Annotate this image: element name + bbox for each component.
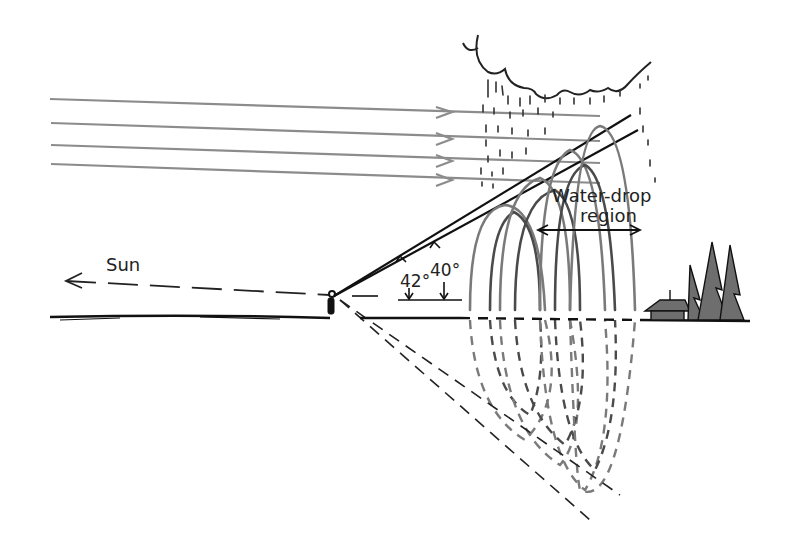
observer-icon [328,291,335,314]
rainbow-diagram: Sun 42° 40° Water-drop region [0,0,794,558]
angle-40-label: 40° [430,260,460,280]
cabin-trees-icon [645,242,744,320]
water-drop-label: Water-drop [552,185,651,206]
region-label: region [580,205,637,226]
cloud-icon [463,35,651,98]
sunlight-rays [50,99,600,186]
angle-42-label: 42° [400,271,430,291]
rain-drops [481,76,655,188]
sun-label: Sun [106,254,140,275]
water-drop-region-arrow [538,225,640,235]
ground-line [50,316,750,321]
sun-direction [66,273,330,295]
rainbow-arcs-below-ground [470,320,635,492]
